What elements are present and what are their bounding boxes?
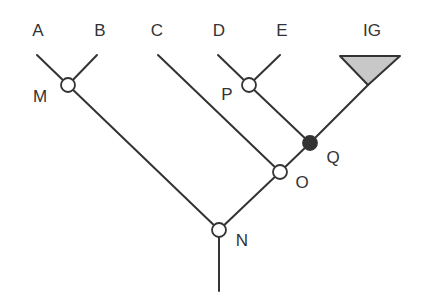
taxon-label-d: D <box>213 22 225 39</box>
node-label-o: O <box>295 174 308 191</box>
branch-n-m <box>68 85 219 230</box>
node-label-n: N <box>236 232 248 249</box>
ingroup-triangle-icon <box>340 56 400 85</box>
taxon-label-ig: IG <box>363 22 381 39</box>
taxon-label-e: E <box>276 22 287 39</box>
node-p <box>242 78 256 92</box>
taxon-label-b: B <box>94 22 105 39</box>
branch-q-ig <box>310 85 368 143</box>
node-label-m: M <box>33 88 47 105</box>
node-label-p: P <box>221 86 232 103</box>
tree-diagram <box>0 0 424 299</box>
branch-n-o <box>219 172 280 230</box>
branch-q-p <box>249 85 310 143</box>
taxon-label-a: A <box>32 22 43 39</box>
node-o <box>273 165 287 179</box>
node-m <box>61 78 75 92</box>
taxon-label-c: C <box>151 22 163 39</box>
node-n <box>212 223 226 237</box>
node-label-q: Q <box>326 149 339 166</box>
node-q <box>303 136 317 150</box>
